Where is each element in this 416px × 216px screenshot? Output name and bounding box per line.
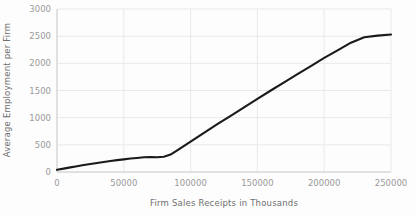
y-tick-label: 0 <box>17 167 51 177</box>
x-tick-label: 100000 <box>161 178 221 189</box>
series-line <box>57 35 391 170</box>
x-tick-label: 0 <box>27 178 87 189</box>
y-tick-label: 2500 <box>17 31 51 41</box>
x-tick-label: 50000 <box>94 178 154 189</box>
x-tick-label: 200000 <box>294 178 354 189</box>
x-axis-title: Firm Sales Receipts in Thousands <box>57 198 391 208</box>
y-tick-label: 3000 <box>17 4 51 14</box>
gridlines <box>57 9 391 172</box>
y-tick-label: 2000 <box>17 58 51 68</box>
data-series-line <box>57 35 391 170</box>
y-tick-label: 1000 <box>17 113 51 123</box>
chart-container: Average Employment per Firm 050010001500… <box>0 0 416 216</box>
y-tick-label: 500 <box>17 140 51 150</box>
y-tick-label: 1500 <box>17 86 51 96</box>
x-tick-label: 150000 <box>227 178 287 189</box>
x-tick-label: 250000 <box>361 178 416 189</box>
